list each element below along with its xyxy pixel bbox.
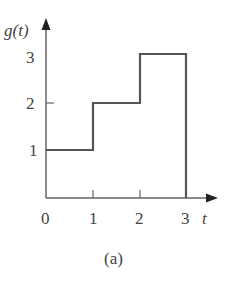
step-function-line <box>46 54 186 198</box>
y-tick-label-2: 2 <box>26 94 35 113</box>
x-tick-label-3: 3 <box>181 209 190 228</box>
step-chart: g(t) 3 2 1 0 1 2 3 t (a) <box>0 0 230 283</box>
x-tick-label-0: 0 <box>41 209 50 228</box>
y-tick-label-3: 3 <box>26 48 35 67</box>
y-axis-arrow-icon <box>42 18 51 30</box>
x-axis-arrow-icon <box>206 194 218 203</box>
x-tick-label-1: 1 <box>89 209 98 228</box>
y-axis-label: g(t) <box>4 21 29 40</box>
x-tick-label-2: 2 <box>135 209 144 228</box>
x-axis-label: t <box>202 209 208 228</box>
figure-caption: (a) <box>104 249 123 268</box>
y-tick-label-1: 1 <box>29 141 38 160</box>
